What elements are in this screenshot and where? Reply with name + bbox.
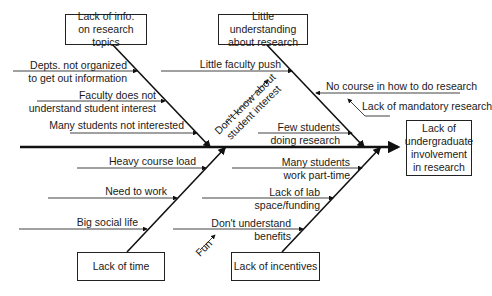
cause-need-work: Need to work xyxy=(105,185,167,198)
category-box-incentives: Lack of incentives xyxy=(231,252,320,281)
category-label: on research topics xyxy=(66,23,146,49)
category-label: Lack of incentives xyxy=(234,260,317,273)
cause-text: Few students xyxy=(271,121,340,134)
cause-few-students: Few studentsdoing research xyxy=(271,121,340,147)
cause-text: No course in how to do research xyxy=(326,80,477,93)
cause-no-course: No course in how to do research xyxy=(326,80,477,93)
cause-course-load: Heavy course load xyxy=(109,155,196,168)
cause-text: Depts. not organized xyxy=(28,59,127,72)
cause-lab-space: Lack of labspace/funding xyxy=(255,186,320,212)
effect-label: Lack of xyxy=(405,122,473,135)
cause-depts: Depts. not organizedto get out informati… xyxy=(28,59,127,85)
cause-part-time: Many studentswork part-time xyxy=(282,156,350,182)
cause-text: Heavy course load xyxy=(109,155,196,168)
category-box-understanding: Little understandingabout research xyxy=(218,14,308,45)
cause-text: work part-time xyxy=(282,169,350,182)
cause-text: Many students not interested xyxy=(49,119,184,132)
cause-not-interested: Many students not interested xyxy=(49,119,184,132)
cause-text: Lack of mandatory research xyxy=(362,100,492,113)
cause-faculty-push: Little faculty push xyxy=(200,58,281,71)
effect-label: undergraduate xyxy=(405,135,473,148)
category-box-time: Lack of time xyxy=(77,252,165,281)
cause-mandatory: Lack of mandatory research xyxy=(362,100,492,113)
cause-text: Little faculty push xyxy=(200,58,281,71)
cause-text: doing research xyxy=(271,134,340,147)
category-label: Lack of info. xyxy=(66,10,146,23)
cause-social-life: Big social life xyxy=(77,216,138,229)
category-label: about research xyxy=(219,36,307,49)
cause-text: Lack of lab xyxy=(255,186,320,199)
category-label: Little understanding xyxy=(219,10,307,36)
cause-benefits: Don't understandbenefits xyxy=(211,217,291,243)
category-box-info: Lack of info.on research topics xyxy=(65,14,147,45)
cause-text: Don't understand xyxy=(211,217,291,230)
cause-text: benefits xyxy=(211,230,291,243)
cause-text: space/funding xyxy=(255,199,320,212)
cause-text: Need to work xyxy=(105,185,167,198)
effect-label: in research xyxy=(405,161,473,174)
cause-faculty: Faculty does notunderstand student inter… xyxy=(29,89,156,115)
cause-text: understand student interest xyxy=(29,102,156,115)
cause-text: to get out information xyxy=(28,72,127,85)
category-label: Lack of time xyxy=(93,260,150,273)
effect-label: involvement xyxy=(405,148,473,161)
cause-text: Big social life xyxy=(77,216,138,229)
effect-box: Lack of undergraduate involvement in res… xyxy=(406,120,472,176)
cause-text: Faculty does not xyxy=(29,89,156,102)
cause-text: Many students xyxy=(282,156,350,169)
